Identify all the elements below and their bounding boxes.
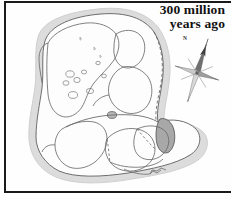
compass-north-label: N	[183, 35, 187, 41]
figure-canvas: 300 million years ago N	[6, 3, 231, 191]
figure-frame: 300 million years ago N	[4, 1, 231, 193]
compass-rose: N	[166, 33, 228, 105]
figure-title: 300 million years ago	[160, 3, 225, 31]
compass-rose-graphic	[166, 33, 228, 105]
figure-root: 300 million years ago N	[0, 0, 232, 205]
title-line-1: 300 million	[160, 3, 225, 17]
title-line-2: years ago	[160, 17, 225, 31]
